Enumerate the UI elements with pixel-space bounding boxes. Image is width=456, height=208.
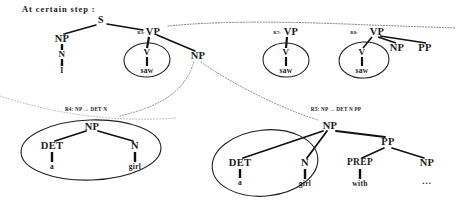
node-det-left: DET [41, 141, 64, 152]
rule-text-r5: R5: NP → DET N PP [311, 107, 361, 112]
node-pp-alt-2: PP [418, 43, 431, 54]
np-tree-right-edges [240, 131, 424, 179]
np-tree-left-edges [52, 131, 135, 162]
node-v-alt-1: V [283, 48, 290, 57]
rule-label-vp-alt-2: R8: [350, 31, 357, 36]
terminal-a-right: a [238, 179, 242, 187]
node-np-object-main: NP [191, 51, 206, 62]
node-np-alt-2: NP [390, 43, 405, 54]
diagram-strokes [0, 0, 456, 208]
terminal-saw-alt-2: saw [356, 67, 369, 75]
ellipsis-placeholder: ... [422, 176, 432, 186]
node-s: S [98, 15, 104, 25]
page-title: At certain step : [22, 4, 96, 14]
np-connector-curves [0, 62, 318, 120]
terminal-saw-main: saw [141, 67, 154, 75]
rule-label-vp-alt-1: R7: [273, 31, 280, 36]
node-np-left: NP [85, 122, 100, 133]
terminal-with-right: with [352, 180, 367, 188]
node-np-right: NP [323, 121, 338, 132]
rule-label-main-vp: R3: [137, 31, 144, 36]
terminal-girl-left: girl [129, 163, 141, 171]
node-prep-right: PREP [347, 158, 373, 168]
node-v-main: V [144, 48, 151, 57]
terminal-saw-alt-1: saw [280, 67, 293, 75]
dotted-separator [168, 22, 456, 28]
node-det-right: DET [229, 158, 252, 169]
node-np-subject: NP [55, 34, 70, 45]
node-v-alt-2: V [359, 48, 366, 57]
node-vp-alt-1: VP [284, 27, 299, 38]
node-vp-main: VP [146, 27, 161, 38]
node-pp-right: PP [381, 137, 394, 148]
node-np-pp-right: NP [420, 158, 435, 169]
node-n-right: N [301, 158, 309, 169]
node-n-subject: N [59, 50, 66, 59]
parse-tree-diagram: At certain step : S NP N I R3: VP V saw … [0, 0, 456, 208]
terminal-girl-right: girl [299, 180, 311, 188]
terminal-i: I [60, 67, 63, 75]
node-vp-alt-2: VP [370, 27, 385, 38]
node-n-left: N [131, 141, 139, 152]
terminal-a-left: a [50, 163, 54, 171]
main-tree-edges [62, 24, 195, 66]
rule-text-r4: R4: NP → DET N [65, 107, 107, 112]
